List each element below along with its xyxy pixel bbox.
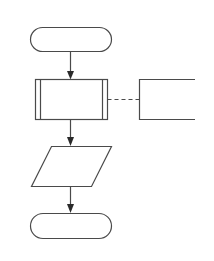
start-terminator bbox=[31, 28, 112, 52]
flowchart-canvas bbox=[0, 0, 214, 261]
arrow-process-to-data bbox=[67, 120, 74, 147]
arrow-data-to-end bbox=[67, 187, 74, 214]
end-terminator bbox=[31, 214, 112, 239]
annotation-bracket bbox=[140, 80, 196, 120]
arrow-start-to-process bbox=[67, 52, 74, 80]
data-parallelogram bbox=[32, 147, 112, 187]
predefined-process-box bbox=[36, 80, 108, 120]
